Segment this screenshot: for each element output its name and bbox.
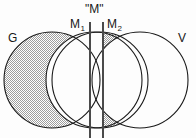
label-circle-v: V	[178, 32, 186, 44]
label-circle-g: G	[8, 32, 17, 44]
label-circle-m2: M2	[107, 18, 121, 30]
label-circle-m1: M1	[70, 18, 84, 30]
label-m1-base: M	[70, 17, 80, 31]
shaded-region-M2	[0, 0, 196, 138]
label-m1-subscript: 1	[81, 24, 85, 33]
venn-diagram-figure: G M1 "M" M2 V	[0, 0, 196, 138]
venn-diagram-canvas	[0, 0, 196, 138]
label-m2-subscript: 2	[118, 24, 122, 33]
label-m2-base: M	[107, 17, 117, 31]
label-boundary-m: "M"	[85, 3, 104, 15]
